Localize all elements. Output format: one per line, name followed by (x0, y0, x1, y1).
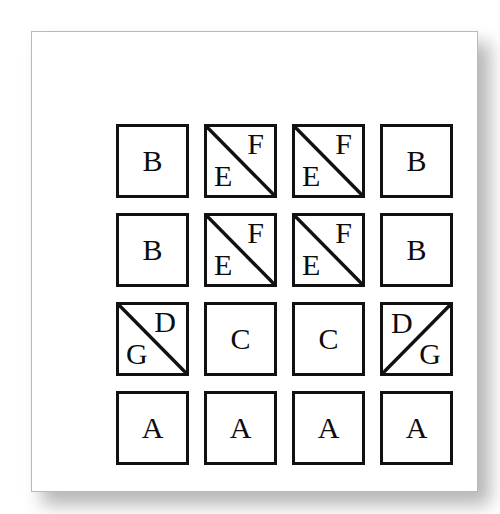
cell-label: A (295, 413, 362, 443)
cell-label: B (383, 235, 450, 265)
cell-label: A (207, 413, 274, 443)
grid-cell-r4c4[interactable]: A (380, 391, 453, 465)
cell-label-lower-left: E (302, 161, 320, 191)
grid-cell-r4c1[interactable]: A (116, 391, 189, 465)
grid-cell-r3c1[interactable]: G D (116, 302, 189, 376)
cell-grid: B E F E F B B (116, 124, 455, 465)
cell-label-upper-right: F (335, 129, 352, 159)
cell-label: C (207, 324, 274, 354)
grid-cell-r4c3[interactable]: A (292, 391, 365, 465)
cell-label-lower-left: G (126, 339, 148, 369)
cell-label-lower-left: E (214, 250, 232, 280)
cell-label-upper-right: F (335, 218, 352, 248)
figure-canvas: B E F E F B B (0, 0, 500, 514)
grid-cell-r1c4[interactable]: B (380, 124, 453, 198)
grid-cell-r4c2[interactable]: A (204, 391, 277, 465)
cell-label: A (119, 413, 186, 443)
cell-label-upper-left: D (391, 308, 413, 338)
grid-cell-r2c4[interactable]: B (380, 213, 453, 287)
cell-label-upper-right: F (247, 129, 264, 159)
cell-label-upper-right: F (247, 218, 264, 248)
grid-cell-r1c2[interactable]: E F (204, 124, 277, 198)
grid-cell-r3c2[interactable]: C (204, 302, 277, 376)
cell-label: B (119, 235, 186, 265)
grid-cell-r2c2[interactable]: E F (204, 213, 277, 287)
cell-label-lower-right: G (419, 339, 441, 369)
grid-cell-r1c1[interactable]: B (116, 124, 189, 198)
grid-cell-r3c3[interactable]: C (292, 302, 365, 376)
cell-label: B (383, 146, 450, 176)
cell-label: C (295, 324, 362, 354)
grid-cell-r2c1[interactable]: B (116, 213, 189, 287)
cell-label-lower-left: E (302, 250, 320, 280)
cell-label: A (383, 413, 450, 443)
grid-cell-r1c3[interactable]: E F (292, 124, 365, 198)
grid-cell-r3c4[interactable]: D G (380, 302, 453, 376)
paper-card: B E F E F B B (31, 31, 478, 492)
cell-label: B (119, 146, 186, 176)
cell-label-upper-right: D (154, 307, 176, 337)
grid-cell-r2c3[interactable]: E F (292, 213, 365, 287)
cell-label-lower-left: E (214, 161, 232, 191)
